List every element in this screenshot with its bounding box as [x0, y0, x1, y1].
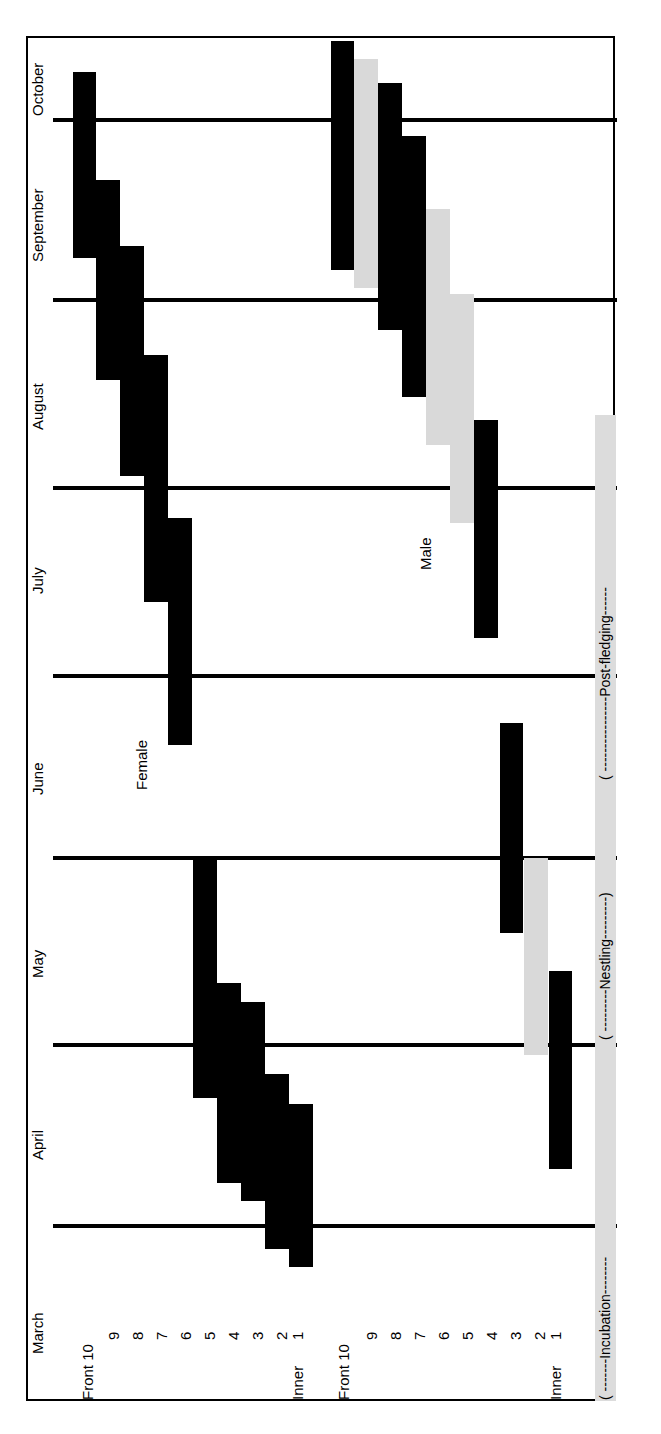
female-bar-9 [96, 180, 120, 380]
female-feather-6: 6 [178, 1332, 193, 1340]
month-line-july [53, 674, 617, 678]
phase-postfledging-label: ( ----------------Post-fledging------ [598, 587, 612, 780]
female-bar-7 [144, 355, 168, 602]
month-line-august [53, 486, 617, 490]
male-bar-3 [500, 723, 523, 933]
month-label-august: August [30, 383, 45, 430]
female-bar-2 [265, 1074, 289, 1249]
male-bar-2 [524, 858, 548, 1055]
female-front10-label: Front 10 [80, 1344, 95, 1400]
female-feather-4: 4 [226, 1332, 241, 1340]
male-feather-5: 5 [460, 1332, 475, 1340]
month-label-july: July [30, 567, 45, 594]
female-feather-1: 1 [290, 1332, 305, 1340]
male-feather-8: 8 [388, 1332, 403, 1340]
female-bar-6 [168, 518, 192, 745]
male-feather-3: 3 [508, 1332, 523, 1340]
female-inner-label: Inner [290, 1366, 305, 1400]
female-bar-4 [217, 983, 241, 1183]
female-bar-10 [73, 72, 96, 258]
male-feather-9: 9 [364, 1332, 379, 1340]
male-bar-9 [354, 59, 378, 288]
month-label-september: September [30, 189, 45, 262]
female-feather-8: 8 [130, 1332, 145, 1340]
female-bar-1 [289, 1104, 313, 1267]
male-inner-label: Inner [548, 1366, 563, 1400]
male-bar-4 [474, 420, 498, 638]
male-bar-7 [402, 136, 426, 397]
female-feather-5: 5 [202, 1332, 217, 1340]
month-line-april [53, 1224, 617, 1228]
male-bar-6 [426, 209, 450, 445]
female-bar-8 [120, 246, 144, 476]
male-feather-7: 7 [412, 1332, 427, 1340]
series-label-female: Female [134, 740, 149, 790]
male-front10-label: Front 10 [336, 1344, 351, 1400]
month-label-june: June [30, 762, 45, 795]
female-bar-5 [193, 858, 217, 1098]
male-feather-6: 6 [436, 1332, 451, 1340]
male-bar-10 [331, 41, 354, 270]
phase-nestling-label: ( ---------Nestling---------) [598, 892, 612, 1040]
male-bar-5 [450, 294, 474, 523]
month-label-october: October [30, 63, 45, 116]
female-feather-9: 9 [106, 1332, 121, 1340]
month-label-may: May [30, 950, 45, 978]
month-label-april: April [30, 1130, 45, 1160]
male-feather-2: 2 [532, 1332, 547, 1340]
male-feather-4: 4 [484, 1332, 499, 1340]
female-feather-3: 3 [250, 1332, 265, 1340]
month-label-march: March [30, 1312, 45, 1354]
phase-incubation-label: ( -------Incubation-------- [598, 1257, 612, 1400]
series-label-male: Male [418, 537, 433, 570]
male-bar-1 [549, 971, 572, 1169]
male-feather-1: 1 [548, 1332, 563, 1340]
female-bar-3 [241, 1002, 265, 1201]
female-feather-2: 2 [274, 1332, 289, 1340]
female-feather-7: 7 [154, 1332, 169, 1340]
male-bar-8 [378, 83, 402, 330]
